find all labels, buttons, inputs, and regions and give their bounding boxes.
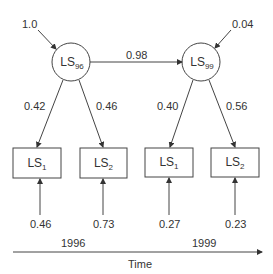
loading-96-1: 0.42 bbox=[24, 100, 45, 112]
latent-ls99-label: LS99 bbox=[186, 55, 218, 71]
loading-99-2: 0.56 bbox=[226, 100, 247, 112]
timeline-end: 1999 bbox=[192, 237, 216, 249]
path-coef: 0.98 bbox=[126, 49, 147, 61]
loading-96-2: 0.46 bbox=[96, 100, 117, 112]
error-ls99: 0.04 bbox=[232, 18, 253, 30]
indicator-1999-ls1: LS1 bbox=[145, 155, 193, 171]
latent-ls96-label: LS96 bbox=[56, 55, 88, 71]
timeline-label: Time bbox=[128, 258, 152, 270]
error-1996-ls1: 0.46 bbox=[30, 218, 51, 230]
indicator-1996-ls2: LS2 bbox=[80, 156, 127, 172]
loading-99-1: 0.40 bbox=[157, 100, 178, 112]
sem-diagram bbox=[0, 0, 273, 274]
error-1999-ls1: 0.27 bbox=[159, 218, 180, 230]
indicator-1996-ls1: LS1 bbox=[13, 156, 61, 172]
error-ls96: 1.0 bbox=[22, 18, 37, 30]
error-1996-ls2: 0.73 bbox=[93, 218, 114, 230]
error-1999-ls2: 0.23 bbox=[225, 218, 246, 230]
indicator-1999-ls2: LS2 bbox=[211, 155, 259, 171]
timeline-start: 1996 bbox=[61, 237, 85, 249]
